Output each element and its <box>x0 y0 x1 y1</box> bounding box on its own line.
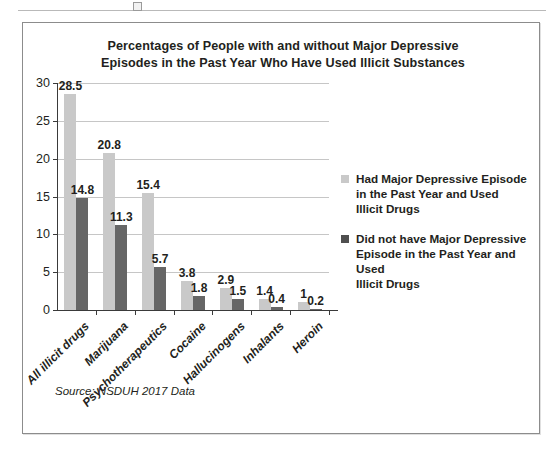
legend-label-line-2: Episode in the Past Year and Used <box>356 246 537 276</box>
legend-swatch-dark-icon <box>341 235 349 243</box>
y-tick-label: 5 <box>43 265 50 279</box>
bar-value-label: 14.8 <box>71 183 94 197</box>
y-tick-label: 20 <box>36 152 50 166</box>
x-category-label-text: Heroin <box>289 319 326 356</box>
bar[interactable]: 28.5 <box>64 94 76 310</box>
plot-area: 051015202530 28.514.820.811.315.45.73.81… <box>57 83 329 310</box>
legend-label-line-1: Had Major Depressive Episode <box>356 171 537 186</box>
bar[interactable]: 14.8 <box>76 198 88 310</box>
chart-frame: Percentages of People with and without M… <box>22 22 540 434</box>
y-tick-label: 25 <box>36 114 50 128</box>
y-tick-label: 0 <box>43 303 50 317</box>
bar-group: 28.514.8 <box>57 83 96 310</box>
legend-item: Had Major Depressive Episode in the Past… <box>341 171 537 216</box>
chart-title-line-2: Episodes in the Past Year Who Have Used … <box>53 55 513 72</box>
chart-title-line-1: Percentages of People with and without M… <box>107 39 458 53</box>
legend-item: Did not have Major Depressive Episode in… <box>341 231 537 291</box>
legend-label-line-2: in the Past Year and Used <box>356 186 537 201</box>
chart-page: Percentages of People with and without M… <box>0 0 560 456</box>
legend-swatch-light-icon <box>341 175 349 183</box>
y-tick-label: 10 <box>36 227 50 241</box>
bar-value-label: 3.8 <box>179 266 196 280</box>
legend-label-line-3: Illicit Drugs <box>356 276 537 291</box>
bar-value-label: 20.8 <box>98 138 121 152</box>
legend-label-line-3: Illicit Drugs <box>356 201 537 216</box>
chart-legend: Had Major Depressive Episode in the Past… <box>341 171 537 306</box>
bar-value-label: 11.3 <box>110 210 133 224</box>
bar-value-label: 15.4 <box>136 178 159 192</box>
bar-value-label: 5.7 <box>152 252 169 266</box>
chart-title: Percentages of People with and without M… <box>53 38 513 72</box>
legend-label-line-1: Did not have Major Depressive <box>356 231 537 246</box>
page-top-rule <box>18 10 546 11</box>
x-category-label-text: All illicit drugs <box>24 319 92 387</box>
bar[interactable]: 0.2 <box>310 309 322 311</box>
bar[interactable]: 0.4 <box>271 307 283 310</box>
scan-artifact-icon <box>133 2 142 11</box>
bar-value-label: 28.5 <box>59 79 82 93</box>
source-note: Source: NSDUH 2017 Data <box>55 385 195 397</box>
y-tick-label: 30 <box>36 76 50 90</box>
y-tick-label: 15 <box>36 190 50 204</box>
